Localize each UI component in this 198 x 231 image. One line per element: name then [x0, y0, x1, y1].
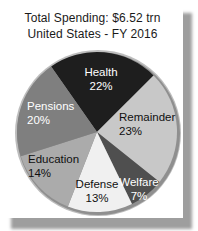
slice-value-education: 14%: [28, 167, 51, 179]
slice-value-remainder: 23%: [119, 125, 142, 137]
slice-value-health: 22%: [89, 80, 112, 92]
pie-chart-area: Health22%Remainder23%Welfare7%Defense13%…: [12, 47, 182, 217]
slice-label-pensions: Pensions: [27, 100, 75, 112]
chart-card: Total Spending: $6.52 trn United States …: [2, 2, 183, 218]
slice-label-remainder: Remainder: [119, 111, 175, 123]
chart-title-line1: Total Spending: $6.52 trn: [2, 10, 183, 26]
pie-chart: Health22%Remainder23%Welfare7%Defense13%…: [12, 47, 182, 217]
chart-title: Total Spending: $6.52 trn United States …: [2, 10, 183, 42]
slice-label-education: Education: [28, 153, 79, 165]
slice-label-welfare: Welfare: [119, 176, 158, 188]
slice-label-health: Health: [84, 66, 117, 78]
slice-label-defense: Defense: [76, 178, 119, 190]
slice-value-defense: 13%: [85, 192, 108, 204]
slice-value-welfare: 7%: [131, 190, 148, 202]
slice-value-pensions: 20%: [27, 114, 50, 126]
chart-title-line2: United States - FY 2016: [2, 26, 183, 42]
screenshot-stage: Total Spending: $6.52 trn United States …: [0, 0, 198, 231]
